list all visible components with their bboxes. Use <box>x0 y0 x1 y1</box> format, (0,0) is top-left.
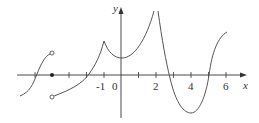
open-circle-lower <box>50 95 54 99</box>
x-axis-arrow-icon <box>240 73 247 78</box>
tick-label-neg1: -1 <box>96 80 105 92</box>
tick-label-6: 6 <box>223 80 229 92</box>
solid-dot <box>50 73 54 77</box>
curve-piece-3 <box>104 11 154 58</box>
tick-label-2: 2 <box>153 80 159 92</box>
origin-label: 0 <box>112 80 118 92</box>
y-axis-arrow-icon <box>119 7 124 14</box>
function-graph: y x 0 -1 2 4 6 <box>0 0 259 123</box>
x-axis-label: x <box>242 79 248 91</box>
open-circle-upper <box>50 51 54 55</box>
curve-piece-4 <box>158 11 227 113</box>
tick-label-4: 4 <box>188 80 194 92</box>
y-axis-label: y <box>112 2 118 14</box>
